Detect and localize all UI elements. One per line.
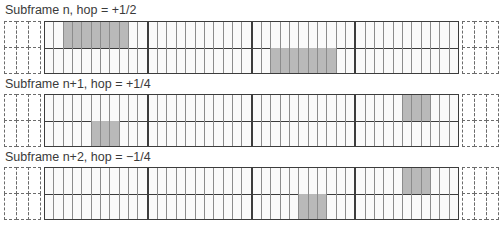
- grid-cell: [384, 194, 393, 219]
- allocated-cell: [92, 22, 101, 48]
- grid-cell: [149, 48, 158, 73]
- grid-cell: [177, 168, 186, 194]
- grid-cell: [158, 22, 167, 48]
- grid-cell: [271, 95, 280, 121]
- grid-row-bottom: [45, 194, 458, 219]
- grid-cell: [375, 48, 384, 73]
- dashed-cell: [486, 120, 499, 147]
- grid-cell: [214, 95, 223, 121]
- grid-cell: [129, 121, 138, 146]
- allocated-cell: [403, 95, 412, 121]
- grid-cell: [73, 48, 82, 73]
- grid-cell: [138, 22, 148, 48]
- grid-cell: [366, 95, 375, 121]
- grid-cell: [346, 194, 356, 219]
- grid-cell: [356, 121, 365, 146]
- allocated-cell: [309, 194, 318, 219]
- allocated-cell: [309, 48, 318, 73]
- grid-cell: [412, 121, 421, 146]
- grid-cell: [431, 168, 440, 194]
- grid-cell: [214, 121, 223, 146]
- grid-cell: [299, 121, 308, 146]
- grid-cell: [110, 194, 119, 219]
- grid-cell: [299, 168, 308, 194]
- grid-cell: [394, 194, 403, 219]
- grid-cell: [440, 22, 449, 48]
- grid-cell: [186, 168, 195, 194]
- grid-cell: [375, 194, 384, 219]
- ghost-right-block: [462, 21, 498, 74]
- grid-cell: [431, 121, 440, 146]
- grid-cell: [394, 95, 403, 121]
- allocated-cell: [101, 121, 110, 146]
- dashed-cell: [28, 120, 41, 147]
- grid-cell: [242, 194, 252, 219]
- allocated-cell: [64, 22, 73, 48]
- grid-cell: [138, 168, 148, 194]
- ghost-left-block: [4, 94, 40, 147]
- grid-cell: [403, 121, 412, 146]
- grid-cell: [158, 95, 167, 121]
- grid-cell: [177, 22, 186, 48]
- grid-cell: [281, 121, 290, 146]
- grid-cell: [149, 121, 158, 146]
- grid-cell: [73, 95, 82, 121]
- grid-cell: [73, 168, 82, 194]
- grid-cell: [167, 194, 176, 219]
- panel-title: Subframe n+1, hop = +1/4: [5, 77, 151, 91]
- grid-cell: [242, 168, 252, 194]
- resource-grid: [44, 21, 459, 74]
- grid-cell: [346, 95, 356, 121]
- allocated-cell: [299, 194, 308, 219]
- grid-cell: [253, 121, 262, 146]
- grid-cell: [253, 194, 262, 219]
- grid-cell: [394, 48, 403, 73]
- grid-cell: [186, 121, 195, 146]
- grid-cell: [309, 95, 318, 121]
- allocated-cell: [327, 48, 336, 73]
- grid-cell: [327, 168, 336, 194]
- dashed-cell: [28, 167, 41, 194]
- grid-cell: [318, 168, 327, 194]
- grid-cell: [101, 168, 110, 194]
- grid-cell: [337, 22, 346, 48]
- grid-cell: [82, 168, 91, 194]
- grid-cell: [337, 194, 346, 219]
- grid-cell: [327, 95, 336, 121]
- grid-cell: [422, 22, 431, 48]
- allocated-cell: [82, 22, 91, 48]
- grid-cell: [233, 95, 242, 121]
- grid-cell: [412, 194, 421, 219]
- grid-cell: [120, 48, 129, 73]
- grid-cell: [129, 48, 138, 73]
- grid-cell: [101, 194, 110, 219]
- grid-cell: [346, 22, 356, 48]
- grid-cell: [450, 194, 458, 219]
- grid-cell: [167, 22, 176, 48]
- grid-cell: [384, 95, 393, 121]
- grid-cell: [177, 48, 186, 73]
- grid-cell: [356, 22, 365, 48]
- grid-cell: [129, 168, 138, 194]
- grid-cell: [431, 22, 440, 48]
- grid-cell: [356, 95, 365, 121]
- grid-cell: [101, 95, 110, 121]
- allocated-cell: [110, 121, 119, 146]
- grid-cell: [299, 95, 308, 121]
- grid-cell: [167, 121, 176, 146]
- grid-cell: [158, 121, 167, 146]
- grid-cell: [242, 48, 252, 73]
- grid-cell: [64, 95, 73, 121]
- grid-cell: [224, 95, 233, 121]
- dashed-cell: [28, 193, 41, 220]
- grid-cell: [196, 22, 205, 48]
- grid-cell: [262, 168, 271, 194]
- grid-cell: [375, 22, 384, 48]
- grid-cell: [45, 48, 54, 73]
- grid-cell: [309, 168, 318, 194]
- grid-cell: [167, 168, 176, 194]
- grid-cell: [366, 48, 375, 73]
- grid-cell: [384, 121, 393, 146]
- grid-cell: [45, 22, 54, 48]
- grid-cell: [403, 22, 412, 48]
